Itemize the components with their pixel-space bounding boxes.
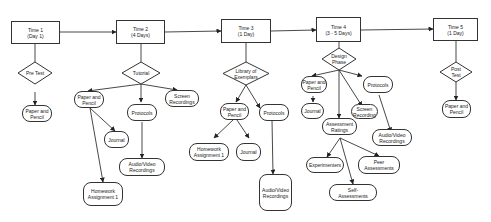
t4-paper-and-pencil: Paper and Pencil — [301, 76, 327, 93]
t1-paper-and-pencil: Paper and Pencil — [22, 105, 52, 122]
timeline-arrow-4-5 — [361, 29, 433, 30]
t2-screen-recordings: Screen Recordings — [165, 90, 199, 107]
t3-homework-assignment: Homework Assignment 1 — [189, 143, 229, 161]
tutorial-label: Tutorial — [122, 62, 160, 84]
t3-protocols: Protocols — [259, 104, 289, 121]
time-5-box: Time 5 (1 Day) — [433, 18, 478, 41]
t3-paper-and-pencil: Paper and Pencil — [220, 103, 249, 120]
time-2-box: Time 2 (4 Days) — [116, 20, 165, 44]
t4-journal: Journal — [301, 103, 324, 119]
post-test-label: Post Test — [440, 62, 472, 82]
design-phase-label: Design Phase — [322, 48, 356, 70]
t4-experimenters: Experimenters — [306, 157, 344, 173]
t4-audio-video-recordings: Audio/Video Recordings — [372, 129, 412, 146]
time-4-box: Time 4 (3 - 5 Days) — [316, 17, 361, 42]
pre-test-label: Pre Test — [18, 62, 52, 84]
t2-homework-assignment: Homework Assignment 1 — [83, 182, 123, 206]
t4-peer-assessments: Peer Assessments — [358, 156, 400, 174]
timeline-arrow-3-4 — [271, 30, 316, 31]
time-3-box: Time 3 (1 Day) — [221, 19, 271, 43]
t2-audio-video-recordings: Audio/Video Recordings — [119, 158, 165, 176]
t2-protocols: Protocols — [127, 104, 157, 121]
t4-screen-recording: Screen Recording — [351, 104, 378, 119]
t3-journal: Journal — [236, 143, 261, 161]
timeline-arrow-2-3 — [165, 31, 221, 32]
t2-paper-and-pencil: Paper and Pencil — [74, 91, 104, 108]
t3-audio-video-recordings: Audio/Video Recordings — [259, 174, 292, 211]
t4-assessment-ratings: Assessment Ratings — [322, 118, 357, 135]
time-1-box: Time 1 (Day 1) — [11, 21, 60, 44]
library-of-exemplars-label: Library of Exemplars — [223, 62, 269, 85]
t4-protocols: Protocols — [363, 76, 393, 93]
t2-journal: Journal — [104, 131, 129, 148]
t5-paper-and-pencil: Paper and Pencil — [442, 100, 471, 118]
t4-self-assessments: Self- Assessments — [329, 184, 377, 201]
